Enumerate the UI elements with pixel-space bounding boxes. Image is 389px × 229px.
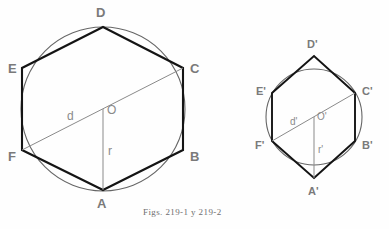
vertex-label-e-prime: E' [256,86,266,97]
vertex-label-d-prime: D' [307,39,318,50]
vertex-label-c: C [190,62,199,75]
vertex-label-b: B [190,150,199,163]
figure-left-group [21,27,185,191]
geometry-drawing [0,0,389,229]
center-label-o-prime: O' [317,112,327,122]
vertex-label-a: A [97,197,106,210]
radius-label-r-prime: r' [318,145,323,155]
diagonal-label-d: d [67,110,74,122]
vertex-label-e: E [8,62,17,75]
diagonal-label-d-prime: d' [290,117,297,127]
center-label-o: O [107,104,116,116]
figure-canvas: A B C D E F O d r A' B' C' D' E' F' O' d… [0,0,389,229]
vertex-label-f-prime: F' [255,140,264,151]
vertex-label-d: D [96,6,105,19]
radius-label-r: r [108,145,112,157]
vertex-label-f: F [8,150,16,163]
vertex-label-a-prime: A' [308,186,319,197]
figure-right-group [266,56,362,178]
vertex-label-b-prime: B' [362,140,373,151]
vertex-label-c-prime: C' [362,86,373,97]
figure-caption: Figs. 219-1 y 219-2 [143,208,222,217]
